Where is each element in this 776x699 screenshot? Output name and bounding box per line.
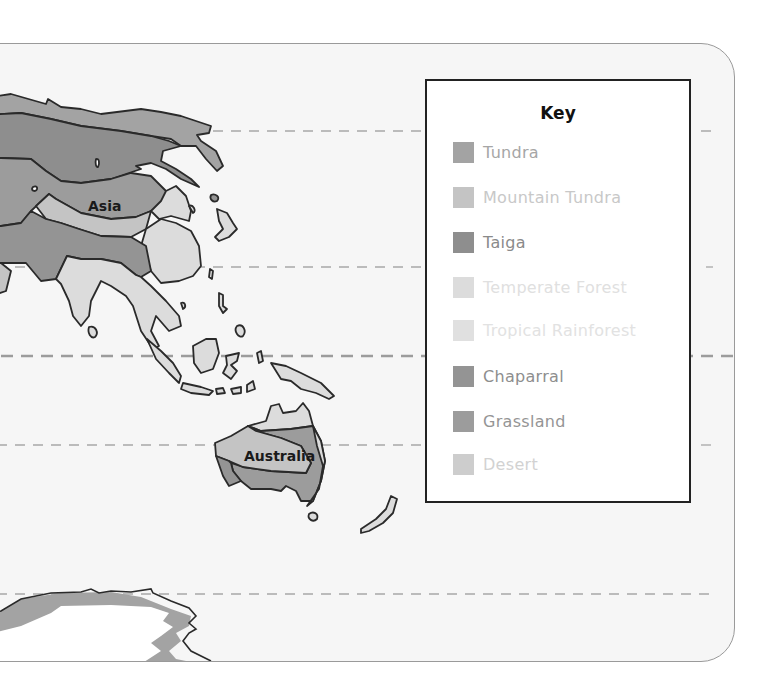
key-item-desert: Desert bbox=[453, 453, 538, 475]
key-item-tropical-rainforest: Tropical Rainforest bbox=[453, 319, 636, 341]
tropical-rainforest-swatch bbox=[453, 320, 474, 341]
key-label: Tundra bbox=[483, 143, 539, 162]
australia-landmass bbox=[215, 403, 397, 533]
grassland-swatch bbox=[453, 411, 474, 432]
asia-label: Asia bbox=[88, 198, 121, 214]
key-item-taiga: Taiga bbox=[453, 231, 526, 253]
desert-swatch bbox=[453, 454, 474, 475]
legend-key: Key Tundra Mountain Tundra Taiga Tempera… bbox=[425, 79, 691, 503]
mountain-tundra-swatch bbox=[453, 187, 474, 208]
key-label: Desert bbox=[483, 455, 538, 474]
key-label: Grassland bbox=[483, 412, 566, 431]
key-item-chaparral: Chaparral bbox=[453, 365, 564, 387]
antarctica-landmass bbox=[0, 589, 211, 662]
key-label: Chaparral bbox=[483, 367, 564, 386]
key-label: Tropical Rainforest bbox=[483, 321, 636, 340]
tundra-swatch bbox=[453, 142, 474, 163]
temperate-forest-swatch bbox=[453, 277, 474, 298]
key-item-temperate-forest: Temperate Forest bbox=[453, 276, 627, 298]
key-label: Temperate Forest bbox=[483, 278, 627, 297]
key-item-tundra: Tundra bbox=[453, 141, 539, 163]
key-label: Taiga bbox=[483, 233, 526, 252]
taiga-swatch bbox=[453, 232, 474, 253]
key-item-grassland: Grassland bbox=[453, 410, 566, 432]
new-guinea bbox=[271, 363, 334, 399]
key-item-mountain-tundra: Mountain Tundra bbox=[453, 186, 621, 208]
chaparral-swatch bbox=[453, 366, 474, 387]
key-title: Key bbox=[427, 103, 689, 123]
australia-label: Australia bbox=[244, 448, 315, 464]
asia-landmass bbox=[0, 94, 263, 395]
key-label: Mountain Tundra bbox=[483, 188, 621, 207]
